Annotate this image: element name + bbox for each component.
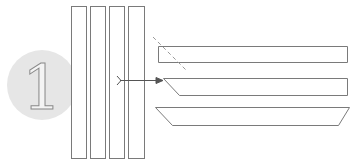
vertical-panel-1	[72, 7, 87, 159]
vertical-panel-2	[91, 7, 106, 159]
diagram-canvas: 1	[0, 0, 352, 164]
one-end-mitred-bar	[164, 79, 348, 96]
arrow-head-icon	[156, 78, 163, 84]
step-badge: 1	[7, 50, 77, 124]
straight-bar	[159, 47, 348, 63]
vertical-panel-3	[110, 7, 125, 159]
step-number: 1	[22, 51, 61, 124]
trapezoid-bar	[156, 108, 350, 126]
vertical-panel-4	[129, 7, 145, 159]
vertical-panels	[72, 7, 145, 159]
horizontal-bars	[156, 47, 350, 126]
